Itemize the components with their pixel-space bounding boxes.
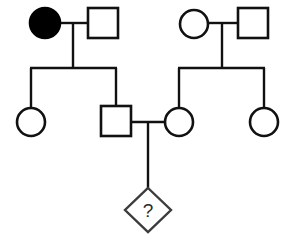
pedigree-diagram: ? bbox=[0, 0, 294, 237]
individual-I-2-male[interactable] bbox=[88, 8, 118, 38]
individual-I-3-female[interactable] bbox=[180, 10, 208, 38]
individual-I-1-affected-female[interactable] bbox=[30, 8, 60, 38]
individual-II-2-male[interactable] bbox=[101, 106, 131, 136]
individual-II-3-female[interactable] bbox=[165, 108, 193, 136]
mating-group-1 bbox=[60, 23, 88, 68]
individual-II-4-female[interactable] bbox=[250, 108, 278, 136]
mating-group-3 bbox=[131, 122, 166, 188]
individual-I-4-male[interactable] bbox=[238, 8, 268, 38]
question-mark-label: ? bbox=[143, 200, 154, 221]
individual-II-1-female[interactable] bbox=[17, 108, 45, 136]
mating-group-2 bbox=[208, 23, 238, 68]
pedigree-chart: ? bbox=[0, 0, 294, 237]
individual-III-1-unknown-sex[interactable]: ? bbox=[125, 188, 171, 232]
